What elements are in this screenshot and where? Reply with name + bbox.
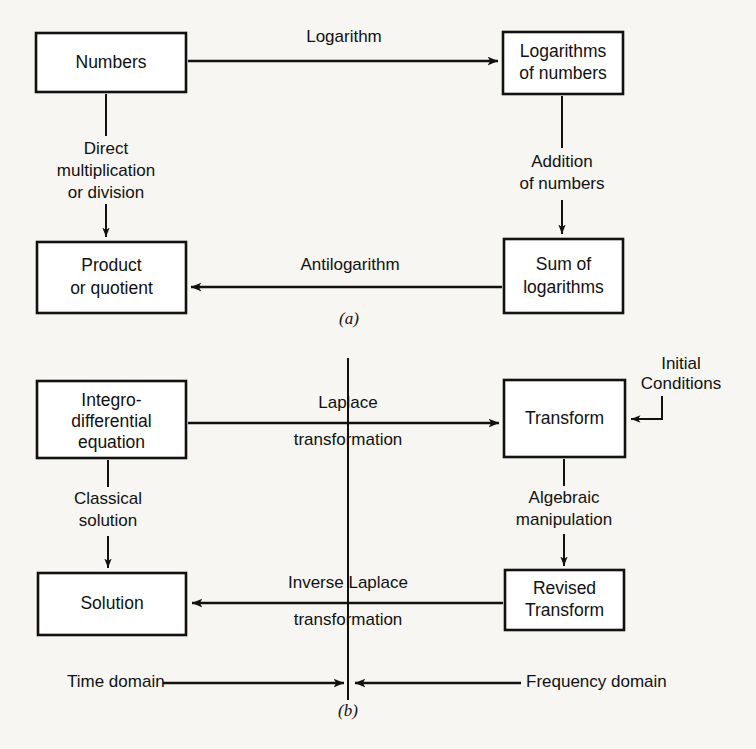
edge-inverse-laplace-transformation-label-line1: Inverse Laplace: [288, 573, 408, 592]
node-product-or-quotient-label-line2: or quotient: [70, 278, 153, 298]
node-integro-differential-equation[interactable]: Integro- differential equation: [37, 381, 186, 458]
edge-logarithm-label: Logarithm: [306, 27, 382, 46]
node-revised-transform-label-line2: Transform: [525, 600, 604, 620]
node-solution[interactable]: Solution: [38, 573, 186, 635]
edge-laplace-transformation: Laplace transformation: [188, 393, 499, 449]
panel-caption-a: (a): [339, 309, 359, 328]
node-revised-transform-label-line1: Revised: [533, 578, 596, 598]
node-revised-transform[interactable]: Revised Transform: [505, 570, 624, 630]
edge-initial-conditions-label-line2: Conditions: [641, 374, 721, 393]
time-domain-label: Time domain: [67, 672, 165, 691]
flowchart-diagram: Numbers Logarithms of numbers Product or…: [0, 0, 756, 749]
node-solution-label: Solution: [80, 593, 143, 613]
edge-antilogarithm-label: Antilogarithm: [300, 255, 399, 274]
edge-algebraic-manipulation-label-line1: Algebraic: [529, 488, 600, 507]
node-transform[interactable]: Transform: [504, 380, 625, 457]
edge-direct-multiplication-label-line2: multiplication: [57, 161, 155, 180]
edge-initial-conditions: Initial Conditions: [631, 354, 721, 419]
node-product-or-quotient[interactable]: Product or quotient: [37, 242, 186, 313]
node-logarithms-of-numbers-label-line1: Logarithms: [520, 41, 607, 61]
node-logarithms-of-numbers[interactable]: Logarithms of numbers: [503, 32, 623, 94]
edge-inverse-laplace-transformation-label-line2: transformation: [294, 610, 403, 629]
figure-canvas: Numbers Logarithms of numbers Product or…: [0, 0, 756, 749]
edge-direct-multiplication-label-line3: or division: [68, 183, 145, 202]
domain-axis: Time domain Frequency domain: [67, 672, 667, 691]
edge-direct-multiplication-label-line1: Direct: [84, 139, 129, 158]
edge-laplace-transformation-label-line2: transformation: [294, 430, 403, 449]
edge-initial-conditions-label-line1: Initial: [661, 354, 701, 373]
node-sum-of-logarithms[interactable]: Sum of logarithms: [504, 239, 623, 313]
edge-addition-of-numbers-label-line1: Addition: [531, 152, 592, 171]
node-integro-differential-equation-label-line1: Integro-: [81, 390, 141, 410]
node-integro-differential-equation-label-line3: equation: [78, 432, 145, 452]
panel-caption-b: (b): [338, 701, 358, 720]
edge-classical-solution-label-line1: Classical: [74, 489, 142, 508]
frequency-domain-label: Frequency domain: [526, 672, 667, 691]
edge-addition-of-numbers-label-line2: of numbers: [519, 174, 604, 193]
node-numbers[interactable]: Numbers: [36, 33, 186, 92]
edge-addition-of-numbers: Addition of numbers: [519, 96, 604, 234]
node-integro-differential-equation-label-line2: differential: [71, 411, 151, 431]
node-numbers-label: Numbers: [76, 52, 147, 72]
node-logarithms-of-numbers-label-line2: of numbers: [519, 63, 607, 83]
edge-antilogarithm: Antilogarithm: [191, 255, 502, 287]
edge-classical-solution-label-line2: solution: [79, 511, 138, 530]
edge-algebraic-manipulation-label-line2: manipulation: [516, 510, 612, 529]
edge-direct-multiplication-or-division: Direct multiplication or division: [57, 94, 155, 237]
edge-laplace-transformation-label-line1: Laplace: [318, 393, 378, 412]
node-sum-of-logarithms-label-line1: Sum of: [536, 254, 592, 274]
edge-algebraic-manipulation: Algebraic manipulation: [516, 459, 612, 566]
edge-logarithm: Logarithm: [188, 27, 498, 61]
node-sum-of-logarithms-label-line2: logarithms: [523, 277, 604, 297]
node-transform-label: Transform: [525, 408, 604, 428]
node-product-or-quotient-label-line1: Product: [81, 255, 141, 275]
edge-classical-solution: Classical solution: [74, 460, 142, 568]
